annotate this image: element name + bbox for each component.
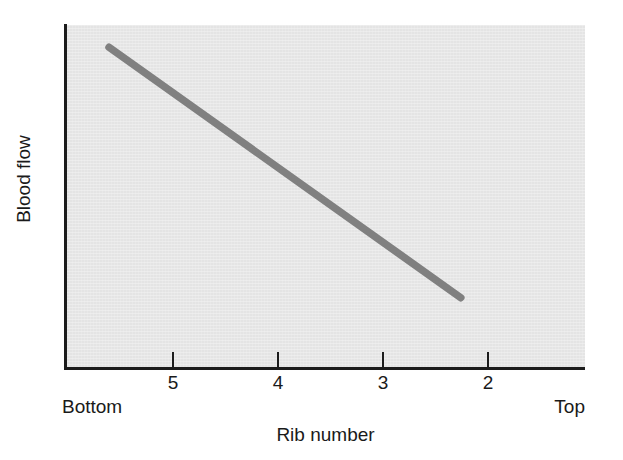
plot-area bbox=[66, 25, 585, 368]
x-tick-mark-5 bbox=[172, 352, 174, 368]
x-axis-endpoint-label-bottom: Bottom bbox=[62, 396, 122, 418]
y-axis-title: Blood flow bbox=[13, 119, 35, 239]
x-axis-line bbox=[64, 367, 585, 370]
x-tick-label-3: 3 bbox=[363, 372, 403, 394]
x-tick-label-4: 4 bbox=[258, 372, 298, 394]
x-tick-label-5: 5 bbox=[153, 372, 193, 394]
x-tick-label-2: 2 bbox=[468, 372, 508, 394]
y-axis-line bbox=[64, 24, 67, 370]
x-tick-mark-3 bbox=[382, 352, 384, 368]
x-axis-title: Rib number bbox=[66, 424, 585, 446]
x-axis-endpoint-label-top: Top bbox=[465, 396, 585, 418]
x-tick-mark-4 bbox=[277, 352, 279, 368]
plot-paper-texture bbox=[66, 25, 585, 368]
blood-flow-chart-figure: 5 4 3 2 Blood flow Rib number Bottom Top bbox=[0, 0, 623, 460]
x-tick-mark-2 bbox=[487, 352, 489, 368]
